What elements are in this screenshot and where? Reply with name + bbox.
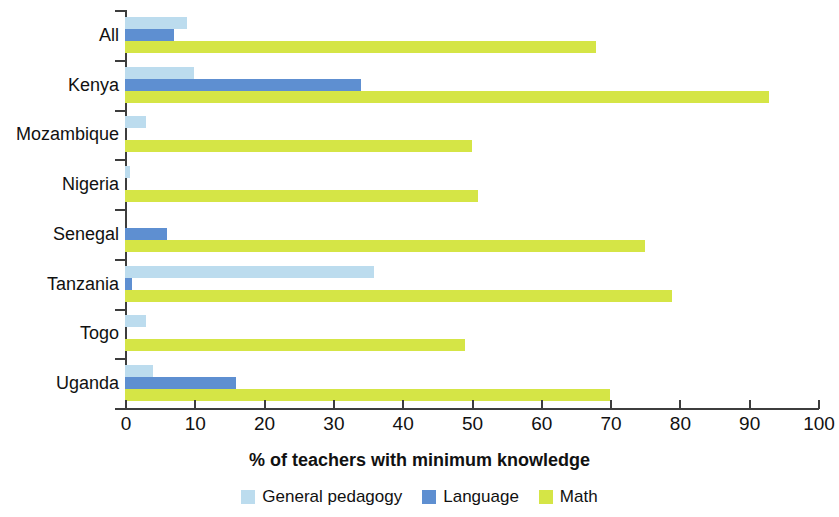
x-axis-tick-label: 20 <box>254 413 275 435</box>
x-axis-title: % of teachers with minimum knowledge <box>0 450 839 471</box>
legend-swatch-icon <box>241 490 255 504</box>
bar-general-pedagogy-mozambique[interactable] <box>125 116 146 128</box>
chart-legend: General pedagogyLanguageMath <box>0 487 839 507</box>
bar-row <box>125 290 818 302</box>
bar-group <box>125 67 818 103</box>
y-axis-label-senegal: Senegal <box>1 224 119 244</box>
x-axis-tick <box>264 400 266 409</box>
legend-item-math[interactable]: Math <box>539 487 598 507</box>
bar-math-senegal[interactable] <box>125 240 645 252</box>
legend-item-language[interactable]: Language <box>422 487 519 507</box>
bar-general-pedagogy-kenya[interactable] <box>125 67 194 79</box>
bar-language-tanzania[interactable] <box>125 278 132 290</box>
bar-row <box>125 91 818 103</box>
bar-language-kenya[interactable] <box>125 79 361 91</box>
y-axis-labels: AllKenyaMozambiqueNigeriaSenegalTanzania… <box>0 0 119 410</box>
x-axis-tick-label: 10 <box>185 413 206 435</box>
x-axis-tick <box>610 400 612 409</box>
bar-row <box>125 29 818 41</box>
bar-general-pedagogy-uganda[interactable] <box>125 365 153 377</box>
bar-language-uganda[interactable] <box>125 377 236 389</box>
y-axis-label-nigeria: Nigeria <box>1 174 119 194</box>
bar-math-kenya[interactable] <box>125 91 769 103</box>
bar-general-pedagogy-nigeria[interactable] <box>125 166 130 178</box>
y-axis-label-togo: Togo <box>1 323 119 343</box>
bar-row <box>125 41 818 53</box>
y-axis-label-all: All <box>1 25 119 45</box>
bar-row <box>125 315 818 327</box>
y-axis-label-tanzania: Tanzania <box>1 274 119 294</box>
bar-row <box>125 178 818 190</box>
legend-item-label: Language <box>443 487 519 507</box>
bar-math-togo[interactable] <box>125 339 465 351</box>
y-axis-label-uganda: Uganda <box>1 373 119 393</box>
x-axis-tick-label: 80 <box>670 413 691 435</box>
bar-group <box>125 216 818 252</box>
y-axis-label-mozambique: Mozambique <box>1 124 119 144</box>
bar-language-senegal[interactable] <box>125 228 167 240</box>
bar-row <box>125 228 818 240</box>
bar-row <box>125 240 818 252</box>
bar-language-all[interactable] <box>125 29 174 41</box>
legend-item-label: General pedagogy <box>262 487 402 507</box>
bar-row <box>125 327 818 339</box>
bar-group <box>125 365 818 401</box>
plot-area <box>125 10 818 408</box>
bar-group <box>125 315 818 351</box>
bar-row <box>125 377 818 389</box>
bar-row <box>125 166 818 178</box>
bar-row <box>125 116 818 128</box>
legend-item-general-pedagogy[interactable]: General pedagogy <box>241 487 402 507</box>
x-axis-tick-label: 100 <box>803 413 835 435</box>
x-axis-tick <box>541 400 543 409</box>
bar-row <box>125 278 818 290</box>
bar-row <box>125 365 818 377</box>
bar-general-pedagogy-tanzania[interactable] <box>125 266 374 278</box>
bar-math-uganda[interactable] <box>125 389 610 401</box>
legend-swatch-icon <box>539 490 553 504</box>
bar-group <box>125 266 818 302</box>
x-axis-tick <box>402 400 404 409</box>
bar-row <box>125 266 818 278</box>
bar-row <box>125 17 818 29</box>
x-axis-tick-label: 60 <box>531 413 552 435</box>
bar-math-nigeria[interactable] <box>125 190 478 202</box>
x-axis-tick <box>333 400 335 409</box>
x-axis-tick <box>679 400 681 409</box>
bar-row <box>125 339 818 351</box>
bar-group <box>125 166 818 202</box>
x-axis-tick <box>818 400 820 409</box>
bar-row <box>125 216 818 228</box>
x-axis-tick-label: 0 <box>121 413 132 435</box>
x-axis-tick <box>749 400 751 409</box>
x-axis-tick <box>472 400 474 409</box>
x-axis-tick-label: 70 <box>601 413 622 435</box>
bar-row <box>125 140 818 152</box>
x-axis-tick-label: 30 <box>323 413 344 435</box>
x-axis-tick-label: 40 <box>393 413 414 435</box>
bar-general-pedagogy-togo[interactable] <box>125 315 146 327</box>
x-axis-tick <box>194 400 196 409</box>
y-axis-label-kenya: Kenya <box>1 75 119 95</box>
bar-math-tanzania[interactable] <box>125 290 672 302</box>
bar-group <box>125 116 818 152</box>
bar-general-pedagogy-all[interactable] <box>125 17 187 29</box>
x-axis-tick-label: 50 <box>462 413 483 435</box>
bar-math-mozambique[interactable] <box>125 140 472 152</box>
x-axis-tick-label: 90 <box>739 413 760 435</box>
bar-row <box>125 128 818 140</box>
bar-row <box>125 79 818 91</box>
legend-swatch-icon <box>422 490 436 504</box>
bar-math-all[interactable] <box>125 41 596 53</box>
bar-row <box>125 67 818 79</box>
legend-item-label: Math <box>560 487 598 507</box>
x-axis-tick <box>125 400 127 409</box>
bar-row <box>125 190 818 202</box>
bar-group <box>125 17 818 53</box>
chart-container: AllKenyaMozambiqueNigeriaSenegalTanzania… <box>0 0 839 517</box>
